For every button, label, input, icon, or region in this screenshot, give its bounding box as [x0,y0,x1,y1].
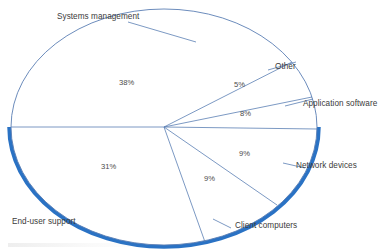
label-application-software: Application software [303,99,377,109]
label-client-computers: Client computers [235,221,297,231]
label-network-devices: Network devices [296,161,357,171]
percent-other: 5% [234,80,245,89]
label-systems-management: Systems management [57,12,139,22]
percent-network-devices: 9% [239,149,250,158]
pie-chart: Systems management Other Application sof… [0,0,392,252]
label-other: Other [275,62,296,72]
percent-application-software: 8% [240,109,251,118]
scan-artifact-line [8,243,158,247]
percent-client-computers: 9% [204,174,215,183]
label-end-user-support: End-user support [12,217,76,227]
pie-chart-graphic [0,0,392,252]
percent-end-user-support: 31% [101,162,116,171]
percent-systems-management: 38% [119,78,134,87]
